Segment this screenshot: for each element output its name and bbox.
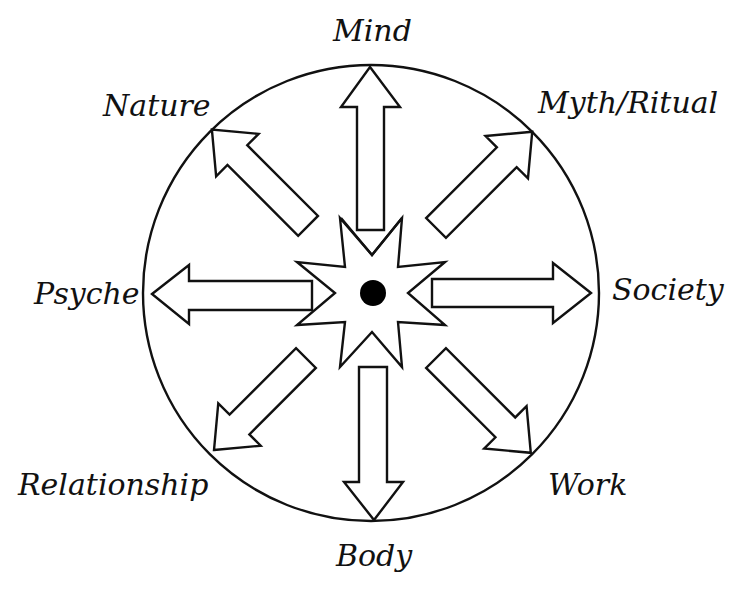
- arrow-relationship: [415, 337, 552, 474]
- label-mind: Mind: [333, 16, 412, 46]
- label-work: Work: [548, 470, 627, 500]
- label-body: Body: [336, 541, 412, 571]
- arrow-work: [415, 111, 554, 250]
- holistic-wheel-diagram: Mind Myth/Ritual Society Work Body Relat…: [0, 0, 746, 615]
- arrow-body: [344, 367, 403, 520]
- label-psyche: Psyche: [34, 279, 140, 309]
- label-relationship: Relationship: [18, 470, 208, 500]
- arrow-psyche: [152, 265, 312, 324]
- arrow-nature: [193, 337, 327, 471]
- label-society: Society: [612, 275, 724, 305]
- label-myth-ritual: Myth/Ritual: [538, 88, 718, 118]
- label-nature: Nature: [103, 91, 211, 121]
- arrow-myth-ritual: [191, 108, 330, 247]
- arrow-mind: [341, 67, 400, 230]
- arrow-society: [432, 263, 591, 323]
- center-dot: [360, 280, 386, 306]
